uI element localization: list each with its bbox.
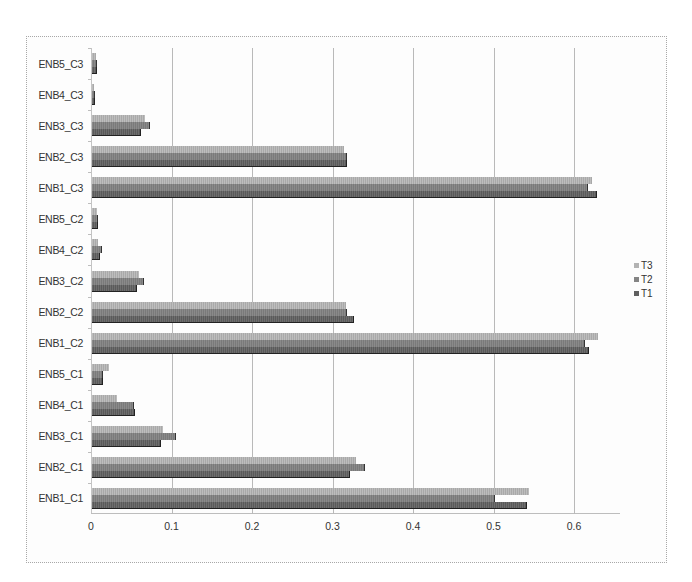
y-tick (88, 172, 91, 173)
category-label: ENB1_C2 (3, 337, 83, 349)
category-label: ENB1_C3 (3, 182, 83, 194)
bar-t1-enb5_c3 (92, 67, 97, 74)
legend-label: T1 (641, 288, 653, 299)
legend-swatch-icon (634, 277, 639, 282)
category-label: ENB2_C1 (3, 461, 83, 473)
bar-t1-enb3_c1 (92, 440, 161, 447)
bar-t3-enb3_c1 (92, 426, 163, 433)
category-label: ENB2_C3 (3, 151, 83, 163)
bar-t3-enb5_c3 (92, 53, 96, 60)
bar-t2-enb1_c3 (92, 184, 588, 191)
bar-t2-enb5_c2 (92, 215, 98, 222)
legend: T3T2T1 (634, 258, 653, 300)
bar-t1-enb1_c3 (92, 191, 597, 198)
category-label: ENB4_C1 (3, 399, 83, 411)
bar-t1-enb4_c1 (92, 409, 135, 416)
category-label: ENB3_C2 (3, 275, 83, 287)
category-label: ENB4_C3 (3, 89, 83, 101)
bar-t2-enb4_c2 (92, 246, 102, 253)
category-label: ENB5_C1 (3, 368, 83, 380)
legend-item-t3: T3 (634, 258, 653, 272)
category-label: ENB1_C1 (3, 492, 83, 504)
bar-t3-enb4_c1 (92, 395, 117, 402)
bar-t1-enb5_c1 (92, 378, 103, 385)
bar-t1-enb1_c1 (92, 502, 527, 509)
bar-t1-enb2_c1 (92, 471, 350, 478)
bar-t3-enb5_c2 (92, 208, 97, 215)
x-axis (91, 513, 620, 514)
y-tick (88, 141, 91, 142)
x-tick-label: 0.1 (164, 520, 179, 532)
legend-swatch-icon (634, 291, 639, 296)
bar-t3-enb2_c3 (92, 146, 344, 153)
legend-label: T2 (641, 274, 653, 285)
x-tick-label: 0 (88, 520, 94, 532)
category-label: ENB3_C3 (3, 120, 83, 132)
gridline (172, 48, 173, 514)
gridline (333, 48, 334, 514)
bar-t2-enb1_c1 (92, 495, 495, 502)
bar-t2-enb3_c3 (92, 122, 150, 129)
bar-t3-enb2_c2 (92, 302, 346, 309)
y-tick (88, 359, 91, 360)
x-tick-label: 0.2 (245, 520, 260, 532)
bar-t3-enb5_c1 (92, 364, 109, 371)
bar-t2-enb4_c3 (92, 91, 95, 98)
bar-t3-enb2_c1 (92, 457, 356, 464)
bar-t3-enb3_c3 (92, 115, 145, 122)
bar-t2-enb5_c3 (92, 60, 97, 67)
bar-t1-enb2_c3 (92, 160, 347, 167)
bar-t1-enb3_c3 (92, 129, 141, 136)
bar-t2-enb4_c1 (92, 402, 134, 409)
bar-t2-enb2_c3 (92, 153, 347, 160)
category-label: ENB2_C2 (3, 306, 83, 318)
bar-t3-enb1_c2 (92, 333, 598, 340)
category-label: ENB3_C1 (3, 430, 83, 442)
y-tick (88, 328, 91, 329)
y-tick (88, 265, 91, 266)
y-tick (88, 452, 91, 453)
y-tick (88, 421, 91, 422)
gridline (494, 48, 495, 514)
legend-label: T3 (641, 260, 653, 271)
bar-t1-enb2_c2 (92, 316, 354, 323)
bar-t2-enb5_c1 (92, 371, 103, 378)
x-tick-label: 0.3 (325, 520, 340, 532)
bar-t3-enb4_c2 (92, 239, 98, 246)
plot-area (91, 48, 620, 514)
y-tick (88, 79, 91, 80)
bar-t1-enb4_c2 (92, 253, 100, 260)
y-tick (88, 297, 91, 298)
gridline (252, 48, 253, 514)
y-tick (88, 390, 91, 391)
bar-t3-enb1_c3 (92, 177, 592, 184)
bar-t1-enb5_c2 (92, 222, 98, 229)
gridline (574, 48, 575, 514)
y-tick (88, 234, 91, 235)
bar-t3-enb3_c2 (92, 271, 139, 278)
category-label: ENB4_C2 (3, 244, 83, 256)
bar-t1-enb1_c2 (92, 347, 589, 354)
bar-t2-enb3_c1 (92, 433, 176, 440)
bar-t2-enb2_c1 (92, 464, 365, 471)
legend-item-t1: T1 (634, 286, 653, 300)
y-tick (88, 483, 91, 484)
y-tick (88, 48, 91, 49)
bar-t2-enb2_c2 (92, 309, 347, 316)
x-tick-label: 0.4 (406, 520, 421, 532)
legend-item-t2: T2 (634, 272, 653, 286)
category-label: ENB5_C3 (3, 58, 83, 70)
bar-t1-enb4_c3 (92, 98, 95, 105)
bar-t2-enb3_c2 (92, 278, 144, 285)
y-tick (88, 203, 91, 204)
category-label: ENB5_C2 (3, 213, 83, 225)
y-tick (88, 110, 91, 111)
x-tick-label: 0.6 (567, 520, 582, 532)
gridline (413, 48, 414, 514)
bar-t3-enb1_c1 (92, 488, 529, 495)
bar-t3-enb4_c3 (92, 84, 94, 91)
x-tick-label: 0.5 (486, 520, 501, 532)
bar-t1-enb3_c2 (92, 285, 137, 292)
legend-swatch-icon (634, 263, 639, 268)
bar-t2-enb1_c2 (92, 340, 585, 347)
